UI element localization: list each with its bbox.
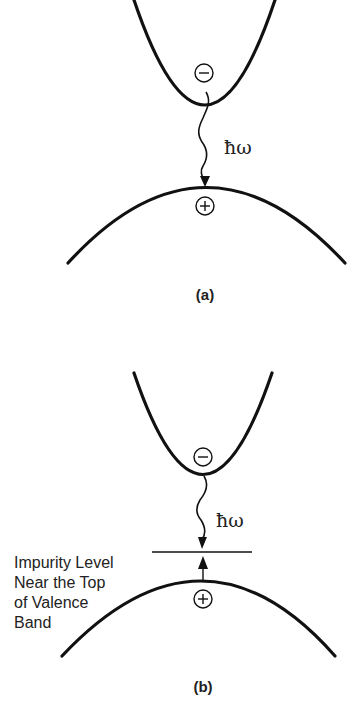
arrow-head-up-icon-b	[198, 556, 208, 569]
panel-b: ħω Impurity Level Near the Top of Valenc…	[14, 373, 335, 695]
hole-icon-b	[194, 590, 212, 608]
impurity-label-line-3: of Valence	[14, 594, 89, 611]
arrow-head-icon-a	[200, 176, 210, 187]
impurity-label-line-1: Impurity Level	[14, 554, 114, 571]
caption-a: (a)	[196, 286, 214, 303]
hole-icon-a	[196, 197, 214, 215]
electron-icon-b	[194, 448, 212, 466]
valence-band-b	[62, 581, 335, 656]
caption-b: (b)	[193, 678, 212, 695]
conduction-band-a	[134, 0, 275, 105]
panel-a: ħω (a)	[68, 0, 345, 303]
band-diagram: ħω (a) ħω Impurity Level Near the Top of…	[0, 0, 354, 706]
photon-label-b: ħω	[216, 509, 244, 531]
conduction-band-b	[134, 373, 272, 475]
impurity-label-line-2: Near the Top	[14, 574, 105, 591]
electron-icon-a	[195, 64, 213, 82]
arrow-head-down-icon-b	[198, 537, 207, 549]
photon-wave-b	[197, 476, 207, 540]
impurity-label-line-4: Band	[14, 614, 51, 631]
impurity-label: Impurity Level Near the Top of Valence B…	[14, 554, 114, 631]
valence-band-a	[68, 188, 345, 264]
photon-label-a: ħω	[224, 136, 252, 158]
